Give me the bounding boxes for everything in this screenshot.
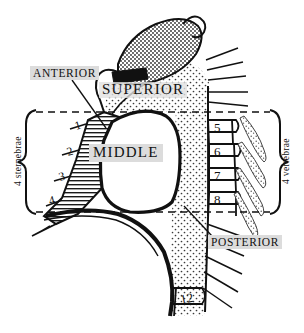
label-vertebrae-bracket: 4 vertebrae — [281, 126, 291, 196]
label-posterior: POSTERIOR — [208, 235, 282, 249]
vertebra-number-7: 7 — [214, 168, 221, 183]
sternebra-number-3: 3 — [57, 169, 67, 184]
label-sternebrae-bracket: 4 sternebrae — [13, 126, 23, 196]
diaphragm-group — [44, 210, 172, 316]
label-superior: SUPERIOR — [99, 82, 187, 98]
vertebra-number-8: 8 — [214, 192, 221, 207]
label-anterior: ANTERIOR — [30, 66, 99, 80]
vertebra-number-6: 6 — [214, 144, 221, 159]
vertebral-bodies — [208, 120, 241, 216]
vertebra-number-12: 12 — [179, 290, 194, 307]
xiphoid-process — [32, 224, 56, 236]
diagram-canvas: 1 2 3 4 5 6 7 8 12 — [0, 0, 304, 333]
diaphragm-curve — [46, 210, 172, 316]
vertebra-number-5: 5 — [214, 120, 221, 135]
label-middle: MIDDLE — [89, 144, 163, 162]
mediastinum-diagram: 1 2 3 4 5 6 7 8 12 ANTERIOR SUPERIOR MID… — [0, 0, 304, 333]
speckled-ribs-group — [234, 116, 266, 238]
